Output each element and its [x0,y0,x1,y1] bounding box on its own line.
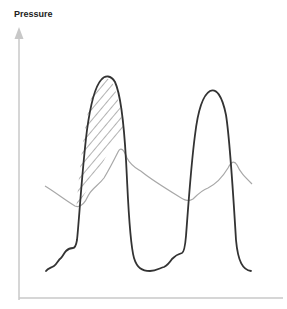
primary-pressure-curve [46,76,251,271]
secondary-pressure-curve [45,149,252,206]
y-axis-arrowhead [15,27,24,39]
pressure-diagram [0,0,287,309]
hatched-region [76,79,123,213]
